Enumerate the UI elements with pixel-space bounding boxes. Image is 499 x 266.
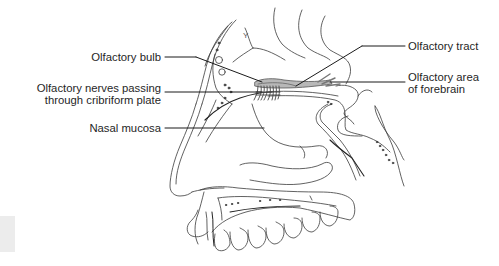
label-olfactory-tract: Olfactory tract [408, 40, 478, 52]
turbinates [240, 104, 332, 185]
label-olfactory-area-line1: Olfactory area [408, 71, 479, 83]
label-nasal-mucosa: Nasal mucosa [89, 122, 161, 134]
svg-text:Y: Y [243, 31, 249, 40]
sphenoid-region [316, 85, 404, 186]
label-olfactory-area-line2: of forebrain [408, 83, 479, 95]
nose-profile [170, 100, 232, 196]
label-olfactory-bulb: Olfactory bulb [91, 51, 161, 63]
label-olfactory-nerves-line1: Olfactory nerves passing [37, 82, 161, 94]
olfactory-bulb-structure [254, 74, 340, 100]
palate-maxilla [187, 187, 355, 246]
label-olfactory-nerves: Olfactory nerves passing through cribrif… [37, 82, 161, 106]
cribriform-plate [205, 91, 345, 120]
label-olfactory-area: Olfactory area of forebrain [408, 71, 479, 95]
label-olfactory-nerves-line2: through cribriform plate [37, 94, 161, 106]
